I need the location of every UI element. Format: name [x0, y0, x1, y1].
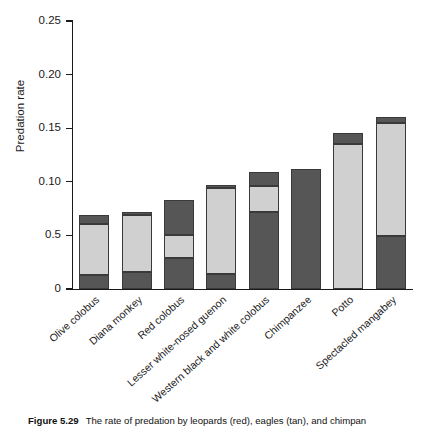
bar-segment-eagles — [249, 186, 279, 212]
y-tick-label: 0.10 — [39, 176, 61, 188]
bar-red-colobus — [164, 21, 194, 289]
bar-segment-leopards — [376, 236, 406, 289]
bar-segment-leopards — [79, 275, 109, 289]
bar-segment-chimpanzees — [249, 172, 279, 186]
bar-segment-leopards — [122, 272, 152, 289]
y-tick-label: 0 — [55, 283, 61, 295]
bar-segment-chimpanzees — [206, 185, 236, 188]
bar-lesser-white-nosed-guenon — [206, 21, 236, 289]
y-axis-title: Predation rate — [14, 56, 26, 176]
bar-segment-leopards — [164, 258, 194, 289]
bar-segment-eagles — [79, 224, 109, 275]
y-tick-label: 0.15 — [39, 122, 61, 134]
bar-segment-chimpanzees — [333, 133, 363, 145]
y-tick-label: 0.25 — [39, 15, 61, 27]
bar-segment-chimpanzees — [376, 117, 406, 122]
bar-segment-chimpanzees — [122, 212, 152, 215]
bar-segment-leopards — [206, 274, 236, 289]
caption-text: The rate of predation by leopards (red),… — [86, 415, 367, 426]
bar-segment-chimpanzees — [79, 215, 109, 224]
bar-spectacled-mangabey — [376, 21, 406, 289]
x-tick-label-spectacled-mangabey: Spectacled mangabey — [242, 294, 398, 428]
caption-label: Figure 5.29 — [28, 415, 79, 426]
y-tick-label: 0.5 — [45, 229, 61, 241]
bar-segment-eagles — [206, 188, 236, 274]
bar-potto — [333, 21, 363, 289]
bar-segment-eagles — [333, 144, 363, 289]
bar-olive-colobus — [79, 21, 109, 289]
bar-segment-eagles — [376, 123, 406, 237]
bar-western-black-and-white-colobus — [249, 21, 279, 289]
bar-segment-eagles — [164, 235, 194, 258]
bar-diana-monkey — [122, 21, 152, 289]
bar-segment-eagles — [122, 215, 152, 272]
plot-area — [73, 21, 412, 289]
figure-container: Predation rate 0.250.200.150.100.50 Oliv… — [0, 0, 427, 428]
bar-segment-leopards — [291, 169, 321, 289]
x-axis-line — [72, 289, 413, 290]
bar-chimpanzee — [291, 21, 321, 289]
bar-segment-leopards — [249, 212, 279, 289]
bar-segment-chimpanzees — [164, 200, 194, 235]
figure-caption: Figure 5.29The rate of predation by leop… — [28, 415, 420, 427]
y-tick-label: 0.20 — [39, 69, 61, 81]
